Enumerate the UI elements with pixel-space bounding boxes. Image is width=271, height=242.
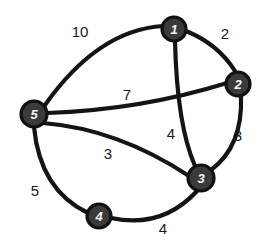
edge-weight-label-1-2: 2 — [221, 25, 229, 42]
edge-weight-label-5-2: 7 — [123, 86, 131, 103]
graph-edge-1-3 — [175, 41, 195, 166]
edge-weight-label-1-3: 4 — [167, 125, 175, 142]
node-label-5: 5 — [30, 107, 38, 122]
node-label-2: 2 — [233, 77, 242, 92]
weighted-graph-figure: 102347354 12345 — [0, 0, 271, 242]
node-label-3: 3 — [197, 171, 205, 186]
node-label-1: 1 — [170, 22, 177, 37]
edge-weight-label-5-3: 3 — [104, 145, 112, 162]
graph-canvas: 102347354 12345 — [0, 0, 271, 242]
edge-weight-labels-layer: 102347354 — [31, 23, 242, 237]
graph-edge-5-1 — [45, 26, 163, 105]
edges-layer — [34, 26, 241, 220]
edge-weight-label-5-4: 5 — [31, 182, 39, 199]
graph-edge-5-4 — [34, 127, 88, 213]
edge-weight-label-4-3: 4 — [159, 220, 167, 237]
edge-weight-label-5-1: 10 — [72, 23, 89, 40]
graph-node-5[interactable]: 5 — [21, 101, 47, 127]
node-label-4: 4 — [94, 209, 103, 224]
graph-node-4[interactable]: 4 — [87, 204, 111, 228]
graph-edge-5-2 — [47, 83, 227, 113]
graph-edge-4-3 — [111, 191, 197, 220]
graph-node-3[interactable]: 3 — [188, 165, 214, 191]
graph-node-1[interactable]: 1 — [162, 17, 186, 41]
edge-weight-label-2-3: 3 — [234, 127, 242, 144]
graph-node-2[interactable]: 2 — [226, 72, 250, 96]
